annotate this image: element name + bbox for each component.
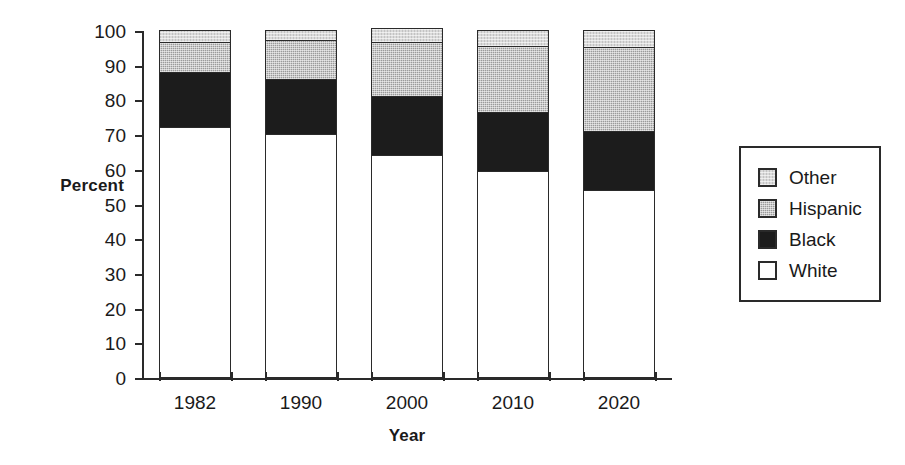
- x-axis-tick-label-2020: 2020: [574, 392, 664, 414]
- stacked-bar-chart: Percent Year 010203040506070809010019821…: [0, 0, 905, 465]
- y-axis-tick: [135, 274, 144, 276]
- legend-label: Other: [789, 168, 837, 187]
- bar-segment-hispanic: [371, 42, 443, 97]
- x-axis-tick: [655, 372, 657, 381]
- y-axis-tick-label: 10: [66, 334, 126, 353]
- bar-segment-black: [371, 95, 443, 155]
- bar-segment-hispanic: [477, 45, 549, 112]
- x-axis-tick: [337, 372, 339, 381]
- bar-segment-other: [477, 30, 549, 47]
- bar-segment-other: [371, 28, 443, 43]
- y-axis-tick: [135, 343, 144, 345]
- chart-legend: OtherHispanicBlackWhite: [739, 146, 881, 302]
- y-axis-tick: [135, 66, 144, 68]
- bar-segment-white: [159, 127, 231, 378]
- y-axis-tick: [135, 100, 144, 102]
- x-axis-tick: [159, 372, 161, 381]
- bar-segment-white: [371, 154, 443, 378]
- x-axis-tick-label-2010: 2010: [468, 392, 558, 414]
- x-axis-tick-label-2000: 2000: [362, 392, 452, 414]
- y-axis-tick: [135, 239, 144, 241]
- bar-segment-hispanic: [265, 40, 337, 80]
- legend-label: Black: [789, 230, 835, 249]
- bar-2000: [371, 29, 443, 378]
- x-axis-tick: [583, 372, 585, 381]
- y-axis-tick: [135, 31, 144, 33]
- x-axis-tick-label-1982: 1982: [150, 392, 240, 414]
- y-axis-tick-label: 90: [66, 57, 126, 76]
- y-axis-tick-label: 0: [66, 369, 126, 388]
- bar-1990: [265, 31, 337, 378]
- y-axis-tick: [135, 378, 144, 380]
- y-axis-tick: [135, 205, 144, 207]
- y-axis-tick-label: 20: [66, 300, 126, 319]
- y-axis-tick: [135, 135, 144, 137]
- legend-item-white[interactable]: White: [741, 255, 879, 286]
- y-axis-tick: [135, 170, 144, 172]
- legend-item-other[interactable]: Other: [741, 162, 879, 193]
- x-axis-tick: [443, 372, 445, 381]
- y-axis-tick-label: 40: [66, 230, 126, 249]
- y-axis-tick-label: 70: [66, 126, 126, 145]
- legend-swatch-black-icon: [758, 230, 777, 249]
- bar-1982: [159, 31, 231, 378]
- legend-label: White: [789, 261, 838, 280]
- legend-swatch-hispanic-icon: [758, 199, 777, 218]
- y-axis-tick-label: 80: [66, 91, 126, 110]
- y-axis-tick-label: 100: [66, 22, 126, 41]
- y-axis-tick-label: 60: [66, 161, 126, 180]
- x-axis-title: Year: [142, 426, 672, 446]
- bar-2020: [583, 31, 655, 378]
- x-axis-tick: [371, 372, 373, 381]
- bar-segment-other: [583, 30, 655, 49]
- bar-segment-black: [583, 130, 655, 190]
- bar-segment-white: [583, 189, 655, 378]
- bar-segment-hispanic: [583, 47, 655, 132]
- bar-2010: [477, 31, 549, 378]
- legend-label: Hispanic: [789, 199, 862, 218]
- x-axis-tick: [265, 372, 267, 381]
- y-axis-tick: [135, 309, 144, 311]
- x-axis-tick: [231, 372, 233, 381]
- y-axis-tick-label: 50: [66, 196, 126, 215]
- bar-segment-other: [159, 30, 231, 44]
- legend-swatch-white-icon: [758, 261, 777, 280]
- bar-segment-white: [477, 170, 549, 378]
- bar-segment-black: [477, 111, 549, 171]
- bar-segment-black: [159, 71, 231, 128]
- y-axis-tick-label: 30: [66, 265, 126, 284]
- bar-segment-hispanic: [159, 42, 231, 73]
- x-axis-tick: [477, 372, 479, 381]
- bar-segment-white: [265, 134, 337, 378]
- plot-area: Year 01020304050607080901001982199020002…: [142, 31, 672, 380]
- x-axis-tick-label-1990: 1990: [256, 392, 346, 414]
- bar-segment-other: [265, 30, 337, 42]
- x-axis-tick: [549, 372, 551, 381]
- legend-item-black[interactable]: Black: [741, 224, 879, 255]
- legend-item-hispanic[interactable]: Hispanic: [741, 193, 879, 224]
- bar-segment-black: [265, 78, 337, 135]
- legend-swatch-other-icon: [758, 168, 777, 187]
- x-axis-line: [142, 378, 672, 380]
